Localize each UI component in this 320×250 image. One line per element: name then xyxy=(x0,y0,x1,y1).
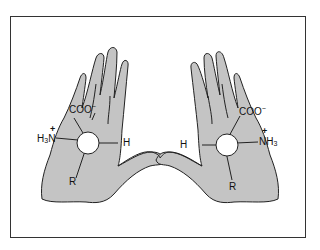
left-side-chain-label: R xyxy=(69,177,76,187)
right-carboxylate-label: COO− xyxy=(239,105,266,117)
right-amino-charge: + xyxy=(262,127,267,136)
left-amino-label: H3N xyxy=(37,134,55,144)
left-hydrogen-label: H xyxy=(123,138,130,148)
right-hydrogen-label: H xyxy=(180,140,187,150)
right-hand xyxy=(156,52,279,203)
right-side-chain-label: R xyxy=(229,182,236,192)
right-amino-label: NH3 xyxy=(259,137,277,147)
left-carboxylate-label: COO− xyxy=(69,103,96,115)
left-hand xyxy=(41,48,166,203)
hands-illustration xyxy=(0,0,320,250)
